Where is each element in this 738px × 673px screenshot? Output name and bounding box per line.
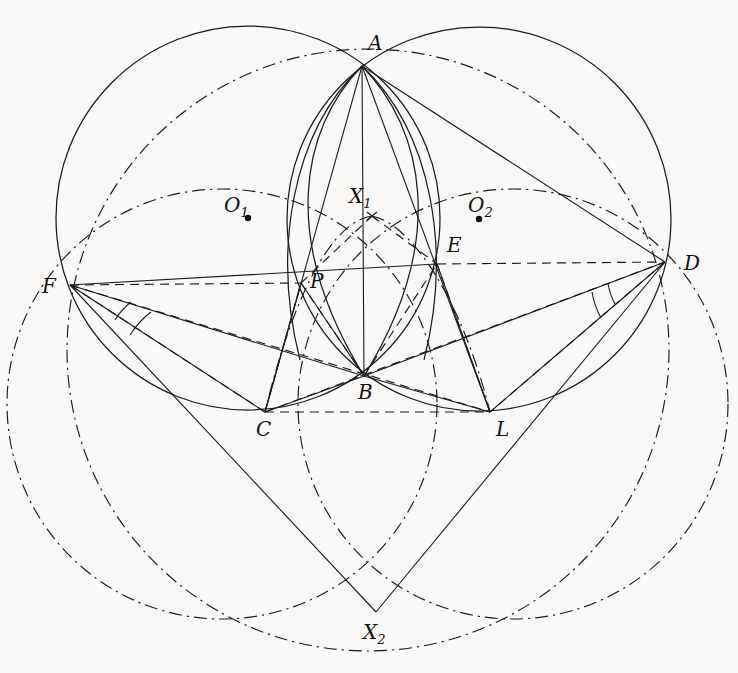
segment-F-B: [70, 285, 364, 376]
circles-layer: [7, 26, 728, 651]
label-X1-main: X: [347, 184, 364, 208]
segment-A-D: [362, 66, 665, 262]
geometry-canvas: A O1 X1 O2 E D F P B C L X2: [0, 0, 738, 673]
label-X2-main: X: [361, 620, 378, 644]
label-O1-sub: 1: [240, 205, 248, 220]
segment-P-B-solid: [301, 283, 364, 376]
label-P: P: [309, 269, 324, 293]
label-O1-main: O: [224, 193, 240, 217]
label-O2-main: O: [468, 193, 484, 217]
label-X2-sub: 2: [376, 632, 385, 647]
circle-upper-dashdot: [67, 49, 669, 651]
segment-C-B: [265, 376, 364, 412]
label-A: A: [366, 31, 382, 55]
label-D: D: [683, 251, 700, 275]
segment-D-L: [490, 262, 665, 412]
label-L: L: [495, 417, 509, 441]
label-F: F: [41, 274, 57, 298]
geometry-figure: A O1 X1 O2 E D F P B C L X2: [0, 0, 738, 673]
segment-A-L: [362, 66, 490, 412]
angle-mark-at-D-inner: [608, 283, 615, 304]
segment-D-X2: [376, 262, 665, 612]
segment-E-D: [437, 262, 665, 264]
segment-F-E: [70, 264, 437, 285]
circle-right-dashdot: [298, 189, 728, 619]
label-O2-sub: 2: [483, 205, 492, 220]
segment-B-L: [364, 376, 490, 412]
tick-X1: [367, 212, 377, 220]
arc-A-P-B: [308, 66, 364, 376]
label-X1-sub: 1: [363, 196, 371, 211]
segment-X1-E: [372, 216, 437, 264]
label-O1: O1: [224, 193, 249, 220]
label-X2: X2: [361, 620, 386, 647]
angle-mark-at-F-inner: [115, 302, 131, 320]
label-E: E: [446, 233, 462, 257]
segment-F-X2: [70, 285, 376, 612]
segment-D-B: [364, 262, 665, 376]
arc-X1-E-L: [372, 216, 490, 412]
segment-E-L: [437, 264, 490, 412]
label-C: C: [256, 417, 271, 441]
angle-mark-at-D-outer: [592, 292, 601, 318]
arc-A-right-outer: [362, 66, 436, 360]
label-X1: X1: [347, 184, 372, 211]
arc-X1-P-C: [265, 216, 372, 412]
label-B: B: [357, 380, 373, 404]
arc-A-left-outer: [288, 66, 362, 360]
label-O2: O2: [468, 193, 493, 220]
arc-A-E-B: [362, 66, 418, 376]
solid-segments-layer: [70, 66, 665, 612]
segment-B-E: [364, 264, 437, 376]
segment-A-B: [362, 66, 364, 376]
